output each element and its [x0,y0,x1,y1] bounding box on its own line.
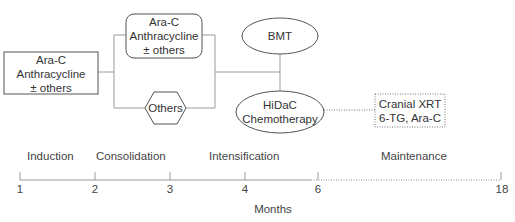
hidac-label: HiDaC Chemotherapy [236,98,324,126]
phase-induction: Induction [27,150,74,162]
phase-consolidation: Consolidation [96,150,166,162]
phase-maintenance: Maintenance [381,150,447,162]
tick-3: 3 [167,183,173,195]
induction-label: Ara-C Anthracycline ± others [4,52,98,95]
phase-intensification: Intensification [209,150,279,162]
maintenance-label: Cranial XRT 6-TG, Ara-C [375,97,445,125]
others-label: Others [145,101,186,115]
tick-4: 4 [242,183,248,195]
tick-1: 1 [17,183,23,195]
axis-title-months: Months [254,203,292,215]
bmt-label: BMT [242,29,318,43]
tick-2: 2 [92,183,98,195]
tick-6: 6 [315,183,321,195]
tick-18: 18 [496,183,509,195]
consolidation-label: Ara-C Anthracycline ± others [126,15,202,57]
